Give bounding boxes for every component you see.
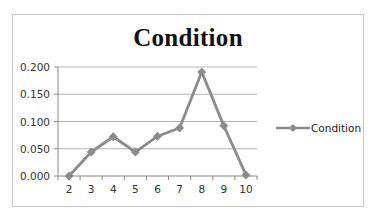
x-tick-label: 4: [110, 183, 117, 195]
y-tick-label: 0.100: [20, 116, 50, 128]
legend-label: Condition: [311, 122, 361, 134]
legend-line-diamond-icon: [276, 123, 310, 133]
x-axis: 2345678910: [58, 176, 257, 195]
x-tick-label: 2: [66, 183, 73, 195]
x-tick-label: 5: [132, 183, 139, 195]
data-point-diamond-icon: [219, 121, 228, 130]
x-tick-label: 7: [176, 183, 183, 195]
y-axis: 0.0000.0500.1000.1500.200: [20, 61, 58, 182]
x-tick-label: 3: [88, 183, 95, 195]
data-point-diamond-icon: [241, 170, 250, 179]
plot-area: 0.0000.0500.1000.1500.200 2345678910: [0, 0, 375, 219]
x-tick-label: 6: [154, 183, 161, 195]
data-point-diamond-icon: [197, 67, 206, 76]
legend: Condition: [276, 122, 361, 134]
y-tick-label: 0.050: [20, 143, 50, 155]
y-tick-label: 0.000: [20, 170, 50, 182]
x-tick-label: 9: [220, 183, 227, 195]
data-point-diamond-icon: [175, 124, 184, 133]
series-condition: [65, 67, 251, 180]
x-tick-label: 10: [239, 183, 252, 195]
x-tick-label: 8: [198, 183, 205, 195]
y-tick-label: 0.150: [20, 88, 50, 100]
y-tick-label: 0.200: [20, 61, 50, 73]
